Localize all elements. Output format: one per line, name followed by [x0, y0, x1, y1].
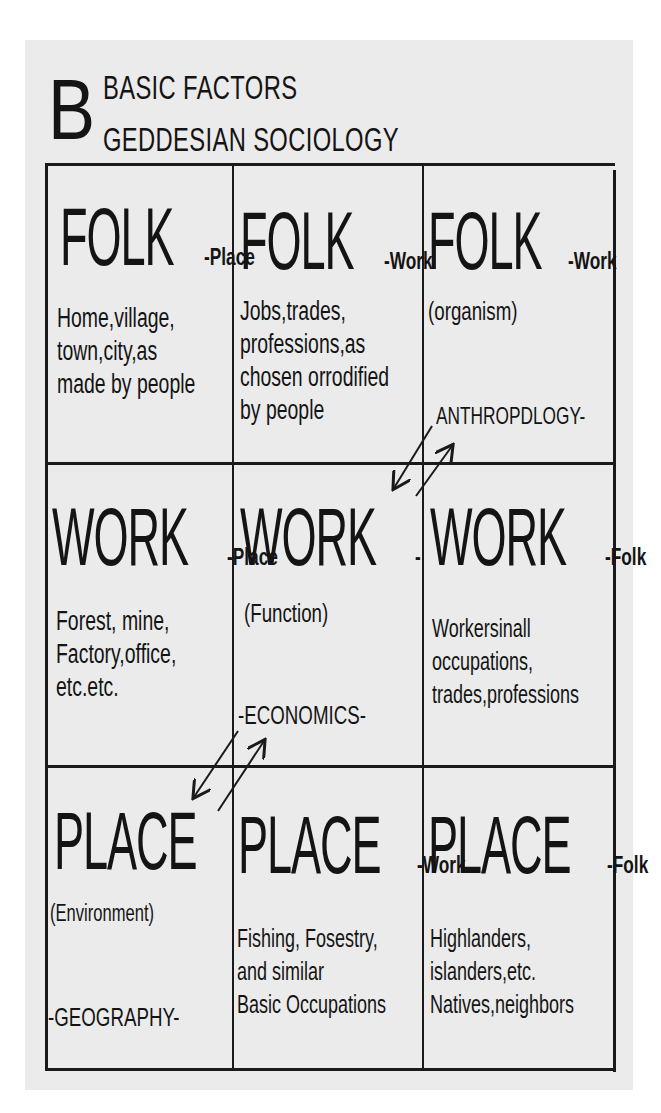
arrow-folk-to-work-diagonal — [394, 426, 452, 496]
arrow-down-left — [194, 731, 238, 797]
arrow-work-to-place-diagonal — [194, 731, 264, 811]
arrow-down-left — [394, 426, 432, 488]
arrow-up-right — [416, 446, 452, 496]
relationship-arrows — [0, 0, 661, 1113]
